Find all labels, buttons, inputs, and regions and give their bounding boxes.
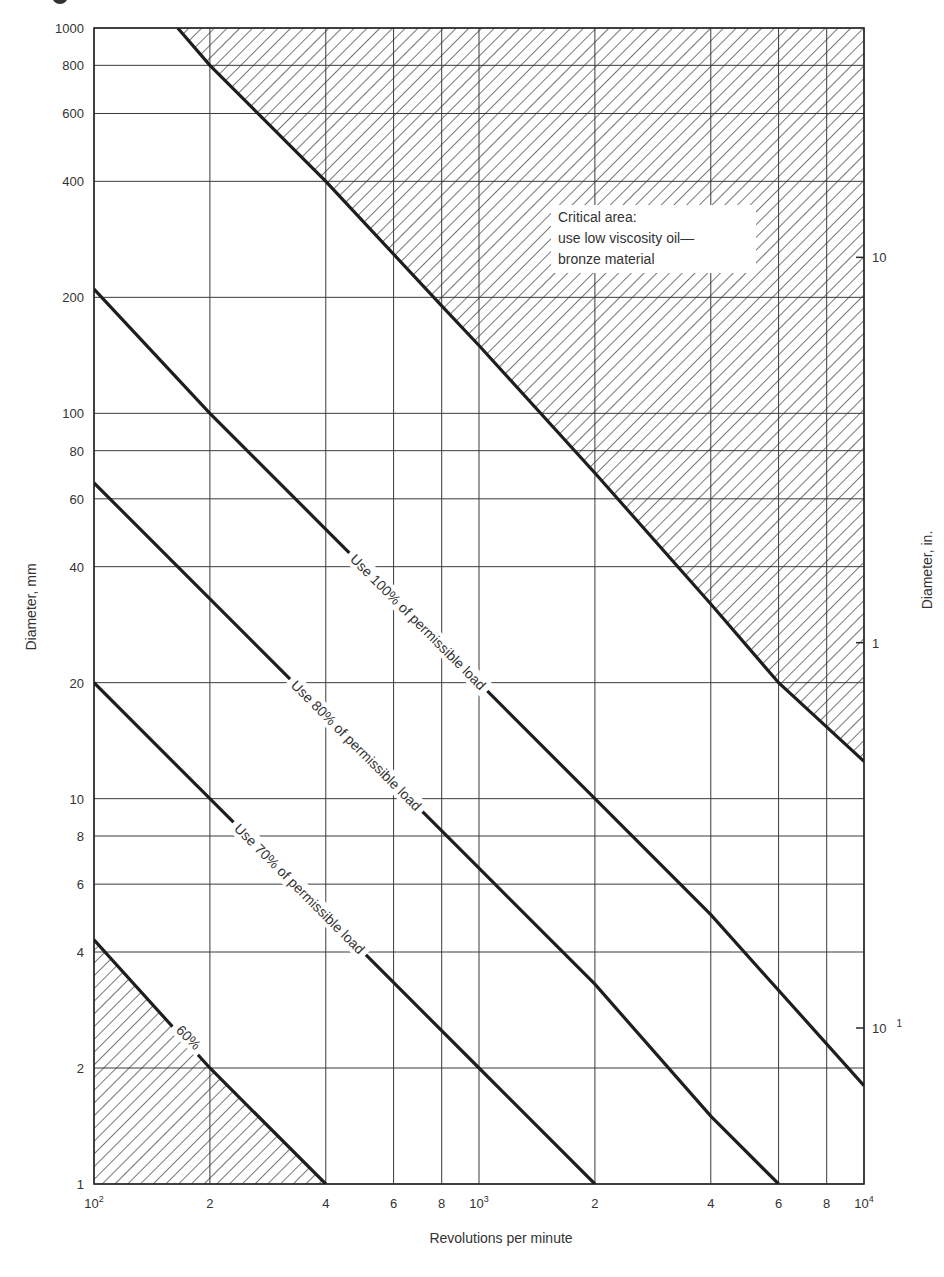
y-tick-label: 20	[70, 676, 84, 691]
y-tick-label: 40	[70, 560, 84, 575]
y-tick-label: 8	[77, 829, 84, 844]
critical-area-line3: bronze material	[558, 251, 655, 267]
y-tick-label: 60	[70, 492, 84, 507]
y-tick-label: 600	[62, 106, 84, 121]
y-tick-label: 400	[62, 174, 84, 189]
y-tick-label: 80	[70, 444, 84, 459]
right-tick-label: 1	[872, 636, 879, 651]
x-tick-label: 104	[854, 1194, 873, 1211]
x-tick-label: 2	[591, 1196, 598, 1211]
x-tick-label: 4	[707, 1196, 714, 1211]
y-tick-label: 10	[70, 792, 84, 807]
y-tick-label: 1000	[55, 21, 84, 36]
curve-100-label: Use 100% of permissible load	[343, 547, 494, 698]
right-tick-label: 10	[872, 250, 886, 265]
y-tick-label: 6	[77, 877, 84, 892]
y-axis-title: Diameter, mm	[23, 563, 39, 650]
right-tick-label: 101	[872, 1018, 902, 1036]
x-tick-label: 2	[206, 1196, 213, 1211]
x-tick-label: 8	[438, 1196, 445, 1211]
x-axis-title: Revolutions per minute	[429, 1230, 572, 1246]
x-tick-label: 102	[84, 1194, 103, 1211]
x-tick-label: 6	[775, 1196, 782, 1211]
x-axis-tick-labels: 10224681032468104	[84, 1194, 873, 1211]
y-tick-label: 1	[77, 1177, 84, 1192]
x-tick-label: 8	[823, 1196, 830, 1211]
svg-text:Use 70% of permissible load: Use 70% of permissible load	[231, 820, 368, 957]
y-axis-tick-labels: 1000800600400200100806040201086421	[55, 21, 84, 1192]
x-tick-label: 6	[390, 1196, 397, 1211]
y-axis-right-title: Diameter, in.	[919, 531, 935, 610]
curve-80-label: Use 80% of permissible load	[284, 673, 429, 818]
y-tick-label: 2	[77, 1061, 84, 1076]
chart-canvas: 101101 Use 100% of permissible loadUse 8…	[0, 0, 944, 1277]
x-tick-label: 4	[322, 1196, 329, 1211]
y-tick-label: 4	[77, 945, 84, 960]
y-tick-label: 800	[62, 58, 84, 73]
svg-text:Use 100% of permissible load: Use 100% of permissible load	[347, 551, 489, 693]
critical-area-annotation: Critical area: use low viscosity oil— br…	[551, 205, 756, 273]
svg-text:Use 80% of permissible load: Use 80% of permissible load	[288, 677, 425, 814]
x-tick-label: 103	[469, 1194, 488, 1211]
critical-area-line2: use low viscosity oil—	[558, 230, 694, 246]
critical-area-line1: Critical area:	[558, 209, 637, 225]
curve-labels: Use 100% of permissible loadUse 80% of p…	[169, 547, 494, 1057]
curve-70-label: Use 70% of permissible load	[227, 816, 372, 961]
y-tick-label: 100	[62, 406, 84, 421]
y-tick-label: 200	[62, 290, 84, 305]
